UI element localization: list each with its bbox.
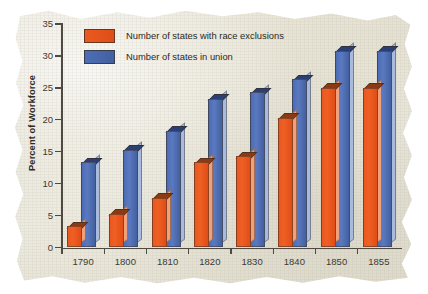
y-tick-label: 35 bbox=[33, 19, 53, 29]
y-tick-mark bbox=[55, 215, 62, 216]
bar-front-face bbox=[321, 88, 336, 248]
legend-label: Number of states in union bbox=[126, 51, 233, 62]
bar bbox=[67, 228, 80, 247]
bar bbox=[236, 158, 249, 247]
bar bbox=[321, 90, 334, 248]
x-tick-label: 1850 bbox=[314, 257, 360, 267]
legend-item: Number of states with race exclusions bbox=[84, 27, 284, 44]
plot-area: Percent of Workforce 05101520253035 1790… bbox=[0, 0, 428, 294]
y-tick-label: 10 bbox=[33, 179, 53, 189]
y-tick-mark bbox=[55, 23, 62, 24]
x-tick-mark bbox=[230, 248, 231, 254]
legend-label: Number of states with race exclusions bbox=[126, 30, 284, 41]
bar bbox=[363, 90, 376, 248]
x-tick-label: 1820 bbox=[187, 257, 233, 267]
x-tick-mark bbox=[61, 248, 62, 254]
legend-swatch-orange bbox=[84, 29, 115, 43]
x-tick-mark bbox=[188, 248, 189, 254]
bar bbox=[278, 120, 291, 248]
y-tick-label: 0 bbox=[33, 243, 53, 253]
x-tick-label: 1790 bbox=[60, 257, 106, 267]
x-tick-mark bbox=[146, 248, 147, 254]
x-tick-label: 1810 bbox=[145, 257, 191, 267]
bar bbox=[109, 216, 122, 248]
bar-front-face bbox=[236, 156, 251, 247]
y-tick-label: 30 bbox=[33, 51, 53, 61]
y-tick-label: 15 bbox=[33, 147, 53, 157]
bar-front-face bbox=[67, 226, 82, 247]
x-tick-mark bbox=[104, 248, 105, 254]
x-tick-label: 1830 bbox=[229, 257, 275, 267]
chart-figure: Percent of Workforce 05101520253035 1790… bbox=[0, 0, 428, 294]
y-tick-mark bbox=[55, 119, 62, 120]
y-tick-label: 5 bbox=[33, 211, 53, 221]
legend-swatch-blue bbox=[84, 50, 115, 64]
y-tick-mark bbox=[55, 55, 62, 56]
bar-front-face bbox=[152, 198, 167, 248]
chart-legend: Number of states with race exclusionsNum… bbox=[84, 27, 284, 69]
bar-front-face bbox=[109, 214, 124, 248]
x-tick-mark bbox=[315, 248, 316, 254]
y-tick-label: 25 bbox=[33, 83, 53, 93]
y-tick-mark bbox=[55, 183, 62, 184]
bar-front-face bbox=[194, 162, 209, 247]
x-tick-label: 1800 bbox=[102, 257, 148, 267]
x-tick-mark bbox=[357, 248, 358, 254]
y-tick-label: 20 bbox=[33, 115, 53, 125]
legend-item: Number of states in union bbox=[84, 48, 284, 65]
y-tick-mark bbox=[55, 151, 62, 152]
bar bbox=[152, 200, 165, 248]
x-tick-mark bbox=[273, 248, 274, 254]
bar-front-face bbox=[278, 118, 293, 248]
bar bbox=[194, 164, 207, 247]
bar-front-face bbox=[363, 88, 378, 248]
x-tick-label: 1840 bbox=[271, 257, 317, 267]
y-tick-mark bbox=[55, 87, 62, 88]
x-tick-label: 1855 bbox=[356, 257, 402, 267]
